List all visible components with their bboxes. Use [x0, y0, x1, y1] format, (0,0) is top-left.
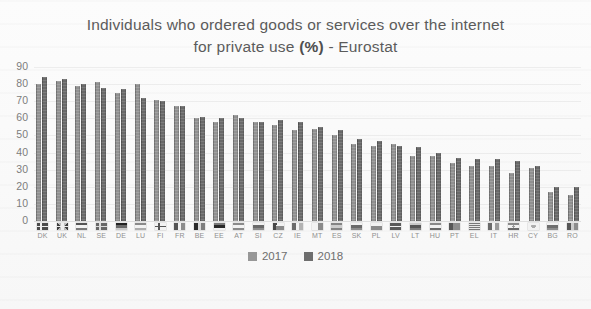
chart-screenshot: Individuals who ordered goods or service…: [0, 0, 591, 309]
bar-group-HU: [430, 153, 441, 221]
x-label-MT: MT: [311, 223, 324, 239]
bar-group-ES: [332, 130, 343, 221]
bar-2017-CZ: [272, 125, 277, 221]
bar-2017-PT: [450, 163, 455, 221]
bar-group-CZ: [272, 120, 283, 221]
x-axis-line: [34, 221, 581, 222]
bar-2018-PT: [456, 158, 461, 221]
flag-icon-MT: [312, 223, 323, 230]
flag-icon-BG: [547, 223, 558, 230]
bar-group-FR: [174, 106, 185, 221]
bar-2017-UK: [56, 81, 61, 221]
bar-2018-LT: [416, 147, 421, 221]
bar-group-MT: [312, 127, 323, 221]
legend-item-2017: 2017: [248, 250, 288, 262]
x-label-CY: CY: [527, 223, 540, 239]
country-code-label: BE: [195, 232, 205, 239]
flag-icon-AT: [233, 223, 244, 230]
country-code-label: SK: [352, 232, 362, 239]
country-code-label: DE: [116, 232, 126, 239]
bar-2017-EL: [469, 166, 474, 221]
bar-group-IT: [489, 159, 500, 221]
y-tick-label: 20: [16, 180, 28, 192]
bar-2018-HU: [436, 153, 441, 221]
x-label-LU: LU: [134, 223, 147, 239]
x-label-LT: LT: [409, 223, 422, 239]
bar-2018-FR: [180, 106, 185, 221]
flag-icon-ES: [331, 223, 342, 230]
legend-label: 2017: [262, 250, 288, 262]
x-label-IT: IT: [487, 223, 500, 239]
x-label-ES: ES: [330, 223, 343, 239]
bar-2018-ES: [338, 130, 343, 221]
bar-2018-HR: [515, 161, 520, 221]
x-label-SE: SE: [95, 223, 108, 239]
bar-2017-AT: [233, 115, 238, 221]
bar-2017-BE: [194, 118, 199, 221]
bar-group-IE: [292, 122, 303, 221]
bar-2018-CZ: [278, 120, 283, 221]
bar-group-BE: [194, 117, 205, 221]
bar-2018-FI: [160, 101, 165, 221]
x-label-AT: AT: [232, 223, 245, 239]
y-tick-label: 50: [16, 129, 28, 141]
bar-group-EE: [213, 118, 224, 221]
bar-2018-BG: [554, 187, 559, 221]
bar-2018-EL: [475, 159, 480, 221]
bar-2017-SK: [351, 144, 356, 221]
flag-icon-LT: [410, 223, 421, 230]
bar-2017-CY: [529, 168, 534, 221]
x-label-BG: BG: [546, 223, 559, 239]
x-axis: DKUKNLSEDELUFIFRBEEEATSICZIEMTESSKPLLVLT…: [0, 223, 591, 239]
bar-group-RO: [568, 187, 579, 221]
x-label-PT: PT: [448, 223, 461, 239]
country-code-label: IT: [491, 232, 498, 239]
country-code-label: HR: [508, 232, 519, 239]
bar-2017-PL: [371, 146, 376, 221]
x-label-SI: SI: [252, 223, 265, 239]
bar-2017-MT: [312, 129, 317, 221]
x-label-LV: LV: [389, 223, 402, 239]
country-code-label: NL: [77, 232, 86, 239]
flag-icon-BE: [194, 223, 205, 230]
bar-2017-ES: [332, 135, 337, 221]
x-label-SK: SK: [350, 223, 363, 239]
bar-2018-AT: [239, 118, 244, 221]
flag-icon-SE: [96, 223, 107, 230]
bar-2017-LU: [135, 84, 140, 221]
y-tick-label: 0: [22, 214, 28, 226]
x-label-FR: FR: [173, 223, 186, 239]
y-tick-label: 80: [16, 78, 28, 90]
flag-icon-EE: [214, 223, 225, 230]
bar-group-UK: [56, 79, 67, 221]
bar-group-EL: [469, 159, 480, 221]
legend-swatch-2018: [304, 252, 313, 261]
flag-icon-SK: [351, 223, 362, 230]
bar-2017-FI: [154, 100, 159, 222]
flag-icon-UK: [57, 223, 68, 230]
bar-2018-PL: [377, 141, 382, 221]
bar-2018-BE: [200, 117, 205, 221]
legend: 20172018: [0, 250, 591, 262]
bar-group-HR: [509, 161, 520, 221]
x-label-NL: NL: [75, 223, 88, 239]
flag-icon-EL: [469, 223, 480, 230]
country-code-label: LV: [392, 232, 400, 239]
bar-group-SI: [253, 122, 264, 221]
country-code-label: IE: [294, 232, 301, 239]
bar-group-LV: [391, 144, 402, 221]
country-code-label: HU: [430, 232, 441, 239]
flag-icon-FI: [155, 223, 166, 230]
bars-container: [36, 67, 579, 221]
bar-2017-SI: [253, 122, 258, 221]
bar-2018-LV: [397, 146, 402, 221]
country-code-label: CZ: [273, 232, 283, 239]
bar-2018-UK: [62, 79, 67, 221]
bar-chart: 9080706050403020100: [0, 67, 591, 221]
x-label-HU: HU: [429, 223, 442, 239]
flag-icon-LV: [390, 223, 401, 230]
bar-2017-SE: [95, 82, 100, 221]
bar-2018-RO: [574, 187, 579, 221]
bar-2018-IE: [298, 122, 303, 221]
bar-2017-FR: [174, 106, 179, 221]
